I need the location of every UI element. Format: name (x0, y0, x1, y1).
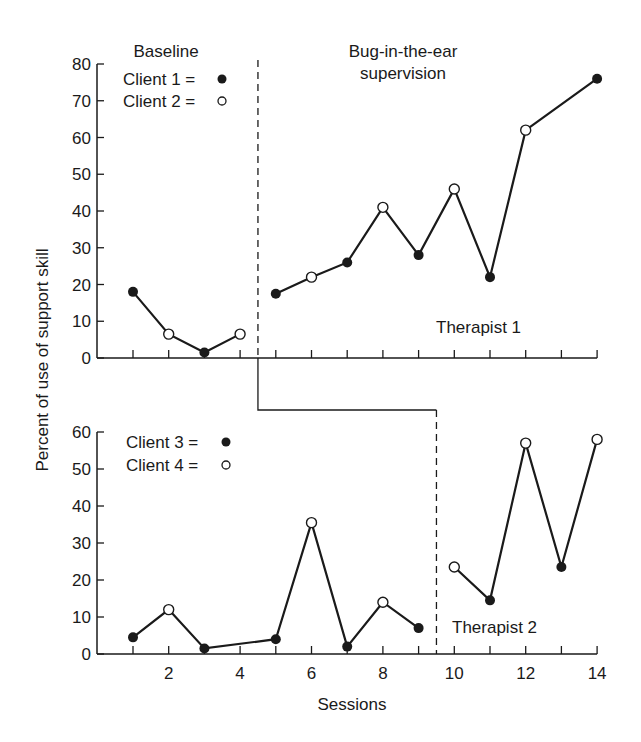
y-tick-label: 60 (72, 129, 91, 148)
filled-data-point (485, 272, 495, 282)
open-data-point (164, 605, 174, 615)
data-line (133, 292, 240, 353)
y-tick-label: 40 (72, 497, 91, 516)
open-data-point (307, 272, 317, 282)
y-tick-label: 20 (72, 276, 91, 295)
filled-data-point (128, 632, 138, 642)
treatment-phase-label-line2: supervision (360, 64, 446, 83)
x-tick-label: 14 (588, 664, 607, 683)
filled-data-point (414, 250, 424, 260)
filled-data-point (271, 289, 281, 299)
filled-data-point (128, 287, 138, 297)
open-data-point (592, 434, 602, 444)
treatment-phase-label-line1: Bug-in-the-ear (349, 42, 458, 61)
filled-data-point (199, 643, 209, 653)
phase-connector-line (258, 358, 437, 410)
open-data-point (164, 329, 174, 339)
legend-client-4: Client 4 = (126, 456, 198, 475)
legend-client-2: Client 2 = (123, 92, 195, 111)
filled-data-point (199, 347, 209, 357)
y-tick-label: 20 (72, 571, 91, 590)
open-data-point (378, 597, 388, 607)
y-tick-label: 30 (72, 239, 91, 258)
y-tick-label: 30 (72, 534, 91, 553)
open-data-point (235, 329, 245, 339)
filled-data-point (485, 595, 495, 605)
x-tick-label: 10 (445, 664, 464, 683)
data-line (133, 523, 419, 649)
baseline-phase-label: Baseline (133, 42, 198, 61)
legend-open-marker-icon (222, 461, 230, 469)
filled-data-point (414, 623, 424, 633)
x-tick-label: 4 (235, 664, 244, 683)
y-tick-label: 40 (72, 202, 91, 221)
panel-label-therapist-1: Therapist 1 (436, 318, 521, 337)
data-line (276, 79, 597, 294)
open-data-point (449, 184, 459, 194)
filled-data-point (271, 634, 281, 644)
x-tick-label: 12 (516, 664, 535, 683)
y-tick-label: 60 (72, 423, 91, 442)
x-tick-label: 6 (307, 664, 316, 683)
filled-data-point (592, 74, 602, 84)
x-tick-label: 2 (164, 664, 173, 683)
open-data-point (521, 438, 531, 448)
legend-filled-marker-icon (218, 75, 227, 84)
y-tick-label: 50 (72, 165, 91, 184)
y-tick-label: 50 (72, 460, 91, 479)
panel-label-therapist-2: Therapist 2 (452, 618, 537, 637)
y-axis-label: Percent of use of support skill (33, 248, 52, 471)
legend-client-1: Client 1 = (123, 70, 195, 89)
y-tick-label: 10 (72, 608, 91, 627)
legend-client-3: Client 3 = (126, 433, 198, 452)
filled-data-point (342, 257, 352, 267)
x-tick-label: 8 (378, 664, 387, 683)
y-tick-label: 80 (72, 55, 91, 74)
legend-filled-marker-icon (222, 438, 231, 447)
data-line (454, 439, 597, 600)
legend-open-marker-icon (218, 97, 226, 105)
multiple-baseline-chart: Percent of use of support skill Sessions… (0, 0, 641, 742)
open-data-point (378, 202, 388, 212)
x-axis-label: Sessions (318, 695, 387, 714)
open-data-point (449, 562, 459, 572)
y-tick-label: 70 (72, 92, 91, 111)
y-tick-label: 0 (82, 349, 91, 368)
open-data-point (307, 518, 317, 528)
open-data-point (521, 125, 531, 135)
y-tick-label: 10 (72, 312, 91, 331)
y-tick-label: 0 (82, 645, 91, 664)
filled-data-point (556, 562, 566, 572)
filled-data-point (342, 642, 352, 652)
